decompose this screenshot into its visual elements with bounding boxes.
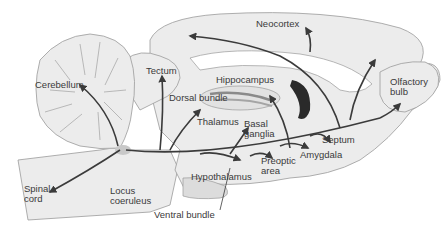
label-ventral-bundle: Ventral bundle: [154, 210, 215, 220]
label-olfactory-bulb: Olfactory bulb: [390, 77, 428, 97]
label-neocortex: Neocortex: [256, 19, 299, 29]
label-thalamus: Thalamus: [197, 117, 239, 127]
label-locus-coeruleus: Locus coeruleus: [110, 186, 151, 206]
label-dorsal-bundle: Dorsal bundle: [169, 93, 228, 103]
label-hippocampus: Hippocampus: [216, 75, 274, 85]
label-preoptic-area: Preoptic area: [261, 156, 296, 176]
label-spinal-cord: Spinal cord: [24, 184, 50, 204]
cerebellum-region: [36, 34, 135, 149]
label-cerebellum: Cerebellum: [35, 80, 84, 90]
label-basal-ganglia: Basal ganglia: [244, 119, 275, 139]
label-amygdala: Amygdala: [300, 150, 342, 160]
label-tectum: Tectum: [146, 66, 177, 76]
label-hypothalamus: Hypothalamus: [191, 172, 252, 182]
label-septum: Septum: [322, 135, 355, 145]
